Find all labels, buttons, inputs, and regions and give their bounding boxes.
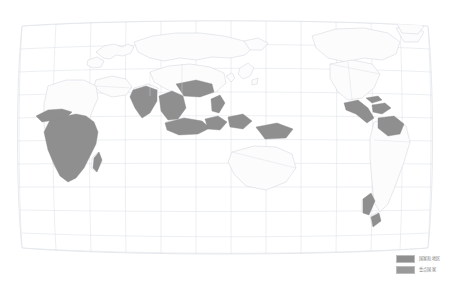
legend-item: 重点国家 — [396, 266, 440, 274]
legend-item: 国家和地区 — [396, 255, 440, 263]
legend-label-region-group-1: 国家和地区 — [419, 256, 440, 262]
map-legend: 国家和地区 重点国家 — [396, 255, 440, 274]
legend-swatch-region-group-2 — [396, 266, 415, 274]
legend-swatch-region-group-1 — [396, 255, 415, 263]
legend-label-region-group-2: 重点国家 — [419, 267, 436, 273]
map-canvas — [0, 0, 451, 296]
world-map-figure: 国家和地区 重点国家 — [0, 0, 451, 296]
